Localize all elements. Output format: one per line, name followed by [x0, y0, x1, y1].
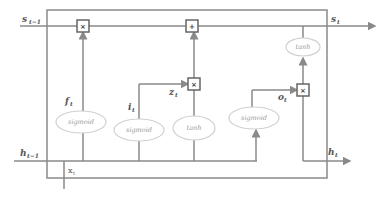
- svg-text:s: s: [331, 14, 336, 24]
- svg-text:s: s: [22, 14, 27, 24]
- svg-text:sigmoid: sigmoid: [241, 114, 267, 122]
- svg-text:t: t: [335, 151, 338, 158]
- svg-text:+: +: [189, 23, 195, 31]
- svg-text:z: z: [168, 87, 175, 97]
- label-s-prev: s t−1: [22, 14, 41, 25]
- forget-gate-sigmoid: sigmoid: [56, 111, 106, 133]
- label-o: o t: [278, 92, 287, 103]
- candidate-tanh: tanh: [173, 116, 215, 140]
- output-multiply-op: ×: [297, 84, 309, 96]
- svg-text:tanh: tanh: [296, 43, 311, 51]
- label-h-prev: h t−1: [20, 148, 39, 159]
- cell-boundary: [47, 10, 327, 178]
- svg-text:sigmoid: sigmoid: [126, 126, 152, 134]
- input-gate-sigmoid: sigmoid: [114, 119, 164, 141]
- label-z: z t: [168, 87, 178, 98]
- svg-text:×: ×: [300, 87, 306, 95]
- svg-text:t: t: [175, 91, 178, 98]
- svg-text:t: t: [337, 18, 340, 25]
- svg-text:×: ×: [80, 23, 86, 31]
- svg-text:h: h: [20, 148, 27, 158]
- svg-text:tanh: tanh: [187, 124, 202, 132]
- svg-text:t: t: [73, 170, 75, 176]
- label-i: i t: [128, 102, 135, 113]
- svg-text:sigmoid: sigmoid: [68, 118, 94, 126]
- svg-text:t: t: [132, 106, 135, 113]
- svg-text:t−1: t−1: [29, 18, 41, 25]
- label-s-out: s t: [331, 14, 340, 25]
- forget-multiply-op: ×: [77, 20, 89, 32]
- label-h-out: h t: [328, 147, 338, 158]
- label-f: f t: [64, 96, 73, 107]
- svg-text:t: t: [284, 96, 287, 103]
- label-x-in: x t: [68, 166, 75, 176]
- svg-text:h: h: [328, 147, 335, 157]
- cell-add-op: +: [186, 20, 198, 32]
- output-gate-sigmoid: sigmoid: [229, 107, 279, 129]
- svg-text:t−1: t−1: [27, 152, 39, 159]
- svg-text:×: ×: [191, 81, 197, 89]
- cell-output-tanh: tanh: [286, 38, 320, 56]
- lstm-diagram: × + × × sigmoid sigmoid tanh sigmoid tan…: [0, 0, 387, 199]
- input-multiply-op: ×: [188, 78, 200, 90]
- svg-text:t: t: [70, 100, 73, 107]
